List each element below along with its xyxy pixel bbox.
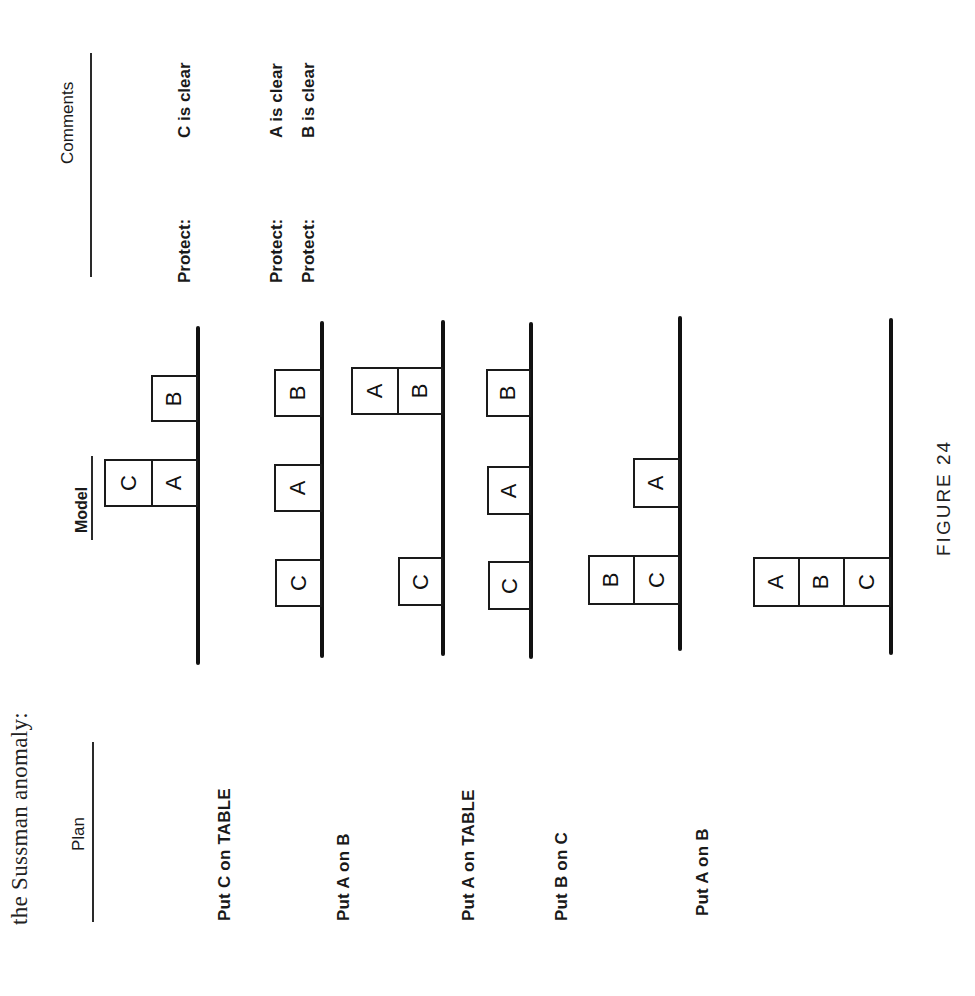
plan-step-4: Put B on C (553, 832, 570, 921)
block-a: A (151, 459, 198, 507)
block-a: A (274, 464, 322, 512)
block-b: B (486, 369, 531, 417)
block-c: C (104, 459, 153, 507)
comment-label: Protect: (300, 219, 317, 283)
figure-caption: FIGURE 24 (934, 440, 953, 556)
comment-label: Protect: (176, 219, 193, 283)
block-a: A (351, 367, 399, 415)
model-header: Model (74, 487, 90, 533)
comment-value: C is clear (176, 62, 193, 138)
block-c: C (633, 555, 680, 605)
plan-header-rule (92, 742, 94, 922)
block-b: B (397, 367, 443, 415)
intro-text: the Sussman anomaly: (8, 712, 31, 925)
block-b: B (588, 555, 635, 605)
block-c: C (398, 557, 443, 606)
comment-label: Protect: (268, 219, 285, 283)
comments-header: Comments (59, 82, 76, 164)
comment-value: B is clear (300, 62, 317, 138)
plan-header: Plan (70, 817, 87, 851)
block-b: B (274, 369, 322, 417)
block-a: A (487, 466, 531, 515)
comment-value: A is clear (268, 63, 285, 138)
plan-step-2: Put A on B (335, 833, 352, 921)
comments-header-rule (90, 53, 92, 277)
block-c: C (275, 559, 322, 607)
plan-step-3: Put A on TABLE (460, 789, 477, 921)
plan-step-5: Put A on B (694, 828, 711, 916)
block-b: B (798, 557, 845, 607)
model-header-rule (91, 456, 93, 540)
block-c: C (843, 557, 891, 607)
block-c: C (488, 561, 531, 610)
plan-step-1: Put C on TABLE (216, 788, 233, 921)
block-b: B (151, 375, 198, 422)
block-a: A (633, 458, 680, 508)
block-a: A (753, 557, 800, 607)
